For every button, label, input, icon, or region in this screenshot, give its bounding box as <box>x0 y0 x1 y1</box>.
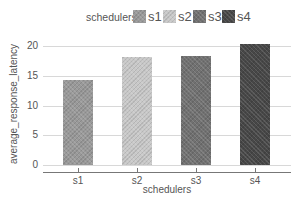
legend-label-s2: s2 <box>178 9 192 24</box>
bar-s3 <box>181 56 211 165</box>
bar-s2 <box>122 57 152 165</box>
y-tick-label: 15 <box>24 70 38 81</box>
y-axis-label: average_response_latency <box>8 44 19 164</box>
x-tick <box>196 168 197 172</box>
y-tick-label: 10 <box>24 100 38 111</box>
x-tick <box>137 168 138 172</box>
x-tick-label: s4 <box>250 175 261 186</box>
x-tick <box>78 168 79 172</box>
legend-swatch-s2 <box>163 10 176 23</box>
x-tick-label: s3 <box>191 175 202 186</box>
x-tick-label: s2 <box>132 175 143 186</box>
legend-title: schedulers <box>86 11 137 23</box>
legend-swatch-s4 <box>222 10 235 23</box>
x-axis-label: schedulers <box>143 184 191 195</box>
y-tick-label: 5 <box>24 129 38 140</box>
legend: schedulers s1s2s3s4 <box>0 9 306 25</box>
bar-s4 <box>240 44 270 165</box>
y-tick-label: 20 <box>24 40 38 51</box>
gridline <box>43 165 291 166</box>
y-tick-label: 0 <box>24 159 38 170</box>
legend-label-s3: s3 <box>208 9 222 24</box>
x-tick-label: s1 <box>73 175 84 186</box>
x-axis-line <box>43 172 291 173</box>
x-tick <box>255 168 256 172</box>
bar-s1 <box>63 80 93 165</box>
legend-label-s4: s4 <box>237 9 251 24</box>
legend-swatch-s3 <box>193 10 206 23</box>
legend-label-s1: s1 <box>148 9 162 24</box>
legend-swatch-s1 <box>133 10 146 23</box>
